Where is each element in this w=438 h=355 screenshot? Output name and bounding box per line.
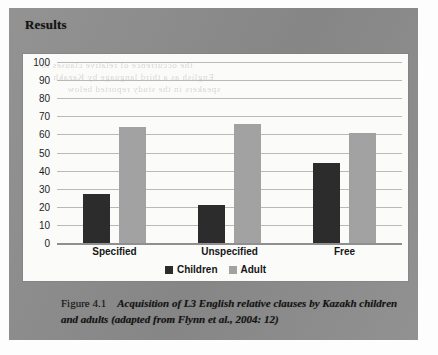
y-tick-label-0: 0 — [44, 238, 50, 249]
y-tick-label-30: 30 — [39, 183, 50, 194]
y-tick-label-20: 20 — [39, 201, 50, 212]
chart-canvas: the occurrence of relative clauses in En… — [23, 54, 408, 281]
plot-area: 1009080706050403020100 — [57, 62, 402, 243]
legend-label-children: Children — [177, 264, 218, 275]
category-label-specified: Specified — [57, 246, 172, 257]
legend-swatch-icon-adult — [229, 266, 237, 274]
bar-adult-specified[interactable] — [119, 127, 146, 243]
category-label-free: Free — [287, 246, 402, 257]
bar-group-specified — [57, 62, 172, 243]
bar-adult-free[interactable] — [349, 133, 376, 243]
bar-group-free — [287, 62, 402, 243]
scanned-page: Results the occurrence of relative claus… — [0, 0, 438, 355]
y-tick-label-100: 100 — [33, 57, 50, 68]
legend-label-adult: Adult — [241, 264, 267, 275]
y-tick-label-40: 40 — [39, 165, 50, 176]
bar-groups — [57, 62, 402, 243]
legend-item-adult[interactable]: Adult — [229, 264, 267, 275]
y-tick-label-90: 90 — [39, 75, 50, 86]
bar-children-free[interactable] — [313, 163, 340, 243]
y-tick-label-70: 70 — [39, 111, 50, 122]
legend-item-children[interactable]: Children — [165, 264, 218, 275]
figure-caption: Figure 4.1 Acquisition of L3 English rel… — [61, 296, 401, 328]
y-tick-label-10: 10 — [39, 219, 50, 230]
section-heading-results: Results — [25, 17, 67, 33]
y-tick-label-50: 50 — [39, 147, 50, 158]
bar-children-unspecified[interactable] — [198, 205, 225, 243]
bar-adult-unspecified[interactable] — [234, 124, 261, 243]
gridline-0 — [57, 243, 402, 245]
y-tick-label-60: 60 — [39, 129, 50, 140]
figure-panel: Results the occurrence of relative claus… — [9, 8, 418, 340]
chart-legend: ChildrenAdult — [23, 264, 408, 275]
bar-group-unspecified — [172, 62, 287, 243]
category-label-unspecified: Unspecified — [172, 246, 287, 257]
figure-number: Figure 4.1 — [61, 297, 106, 309]
y-tick-label-80: 80 — [39, 93, 50, 104]
bar-children-specified[interactable] — [83, 194, 110, 243]
legend-swatch-icon-children — [165, 266, 173, 274]
x-axis-category-labels: SpecifiedUnspecifiedFree — [57, 246, 402, 257]
